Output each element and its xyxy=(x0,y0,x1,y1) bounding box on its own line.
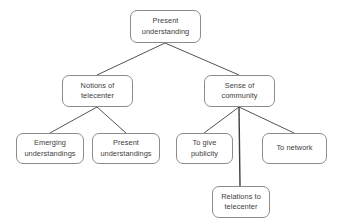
edge-sense-to-network xyxy=(239,107,294,133)
node-label: Present understandings xyxy=(95,138,157,158)
node-root[interactable]: Present understanding xyxy=(130,10,201,43)
node-notions[interactable]: Notions of telecenter xyxy=(62,75,133,107)
node-relations[interactable]: Relations to telecenter xyxy=(212,186,270,218)
node-label: To give publicity xyxy=(179,138,230,158)
concept-tree-diagram: Present understandingNotions of telecent… xyxy=(0,0,340,220)
node-sense[interactable]: Sense of community xyxy=(204,75,275,107)
node-label: Relations to telecenter xyxy=(215,192,267,212)
node-emerging[interactable]: Emerging understandings xyxy=(16,133,84,164)
node-publicity[interactable]: To give publicity xyxy=(176,133,233,164)
node-label: To network xyxy=(265,143,324,153)
edge-root-to-notions xyxy=(97,43,165,75)
node-network[interactable]: To network xyxy=(262,133,327,164)
edge-notions-to-emerging xyxy=(50,107,97,133)
node-label: Notions of telecenter xyxy=(65,81,130,101)
edge-sense-to-relations xyxy=(239,107,240,186)
node-present[interactable]: Present understandings xyxy=(92,133,160,164)
node-label: Emerging understandings xyxy=(19,138,81,158)
edge-sense-to-publicity xyxy=(204,107,239,133)
node-label: Present understanding xyxy=(133,16,198,36)
edge-root-to-sense xyxy=(165,43,239,75)
node-label: Sense of community xyxy=(207,81,272,101)
edge-notions-to-present xyxy=(97,107,126,133)
